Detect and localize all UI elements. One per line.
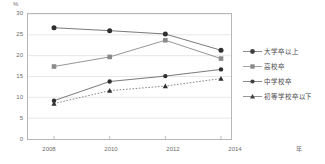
y-axis-unit-label: %	[13, 1, 18, 7]
y-axis-tick-5: 5	[9, 115, 23, 121]
legend-item-3[interactable]: 初等学校卒以下	[243, 89, 325, 104]
data-point	[107, 79, 111, 83]
legend-label-1: 高校卒	[264, 63, 285, 70]
legend-label-0: 大学卒以上	[264, 48, 299, 55]
data-point	[163, 38, 168, 43]
x-axis-unit-label: 年	[296, 146, 302, 152]
y-axis-tick-20: 20	[9, 52, 23, 58]
legend-marker-filled-square-icon	[243, 62, 262, 71]
x-axis-tick-2008: 2008	[34, 146, 64, 152]
series-line-0	[54, 28, 221, 51]
data-point	[163, 32, 168, 37]
x-axis-tick-2010: 2010	[96, 146, 126, 152]
y-axis-tick-30: 30	[9, 10, 23, 16]
series-line-3	[54, 79, 221, 104]
legend-label-2: 中学校卒	[264, 78, 292, 85]
data-point	[52, 64, 57, 69]
legend-item-2[interactable]: 中学校卒	[243, 74, 325, 89]
legend-item-1[interactable]: 高校卒	[243, 59, 325, 74]
legend-marker-small-circle-icon	[243, 77, 262, 86]
series-line-2	[54, 69, 221, 100]
plot-area	[27, 13, 232, 140]
data-point	[107, 55, 112, 60]
legend-item-0[interactable]: 大学卒以上	[243, 44, 325, 59]
legend: 大学卒以上 高校卒 中学校卒	[243, 44, 325, 104]
data-point	[163, 83, 168, 88]
legend-label-3: 初等学校卒以下	[264, 93, 312, 100]
data-point	[163, 74, 167, 78]
data-point	[52, 25, 57, 30]
legend-marker-filled-circle-icon	[243, 47, 262, 56]
x-axis-tick-2012: 2012	[158, 146, 188, 152]
legend-marker-triangle-icon	[243, 92, 262, 101]
line-chart: % 年 30 25 20 15 10 5 0 2008 2010 2012 20…	[0, 0, 325, 164]
data-point	[219, 67, 223, 71]
y-axis-tick-0: 0	[9, 136, 23, 142]
y-axis-tick-25: 25	[9, 31, 23, 37]
y-axis-tick-15: 15	[9, 73, 23, 79]
data-point	[107, 28, 112, 33]
data-point	[219, 48, 224, 53]
data-point	[219, 56, 224, 61]
series-line-1	[54, 40, 221, 66]
plot-svg	[28, 14, 231, 139]
x-axis-tick-2014: 2014	[220, 146, 250, 152]
y-axis-tick-10: 10	[9, 94, 23, 100]
